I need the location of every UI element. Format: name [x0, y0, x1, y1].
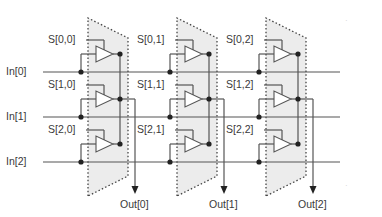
- input-label-2: In[2]: [6, 155, 26, 167]
- select-label-0-2: S[0,2]: [226, 33, 253, 45]
- input-junction-dot-0-2: [256, 69, 261, 74]
- input-junction-dot-0-1: [167, 69, 172, 74]
- input-junction-dot-0-0: [78, 69, 83, 74]
- output-label-2: Out[2]: [298, 198, 327, 210]
- input-label-1: In[1]: [6, 110, 26, 122]
- bus-junction-dot-0-2: [295, 51, 300, 56]
- mux-panel-1: [177, 18, 217, 196]
- bus-junction-dot-1-1: [206, 96, 211, 101]
- faint-mark-bottom: ·: [345, 181, 348, 190]
- bus-junction-dot-0-1: [206, 51, 211, 56]
- select-label-2-2: S[2,2]: [226, 123, 253, 135]
- bus-junction-dot-1-2: [295, 96, 300, 101]
- input-junction-dot-1-1: [167, 114, 172, 119]
- input-junction-dot-2-1: [167, 159, 172, 164]
- select-label-0-0: S[0,0]: [48, 33, 75, 45]
- bus-junction-dot-1-0: [117, 96, 122, 101]
- output-label-1: Out[1]: [209, 198, 238, 210]
- output-arrow-icon-1: [221, 186, 228, 194]
- bus-junction-dot-2-2: [295, 141, 300, 146]
- select-label-1-0: S[1,0]: [48, 78, 75, 90]
- input-junction-dot-2-2: [256, 159, 261, 164]
- mux-panel-0: [88, 18, 128, 196]
- select-label-1-2: S[1,2]: [226, 78, 253, 90]
- bus-junction-dot-2-0: [117, 141, 122, 146]
- select-label-2-0: S[2,0]: [48, 123, 75, 135]
- output-label-0: Out[0]: [120, 198, 149, 210]
- bus-junction-dot-2-1: [206, 141, 211, 146]
- mux-panel-2: [266, 18, 306, 196]
- select-label-0-1: S[0,1]: [137, 33, 164, 45]
- input-label-0: In[0]: [6, 65, 26, 77]
- input-junction-dot-1-2: [256, 114, 261, 119]
- faint-mark-top: ·: [345, 16, 348, 25]
- input-junction-dot-2-0: [78, 159, 83, 164]
- select-label-2-1: S[2,1]: [137, 123, 164, 135]
- bus-junction-dot-0-0: [117, 51, 122, 56]
- output-arrow-icon-2: [310, 186, 317, 194]
- select-label-1-1: S[1,1]: [137, 78, 164, 90]
- output-arrow-icon-0: [132, 186, 139, 194]
- input-junction-dot-1-0: [78, 114, 83, 119]
